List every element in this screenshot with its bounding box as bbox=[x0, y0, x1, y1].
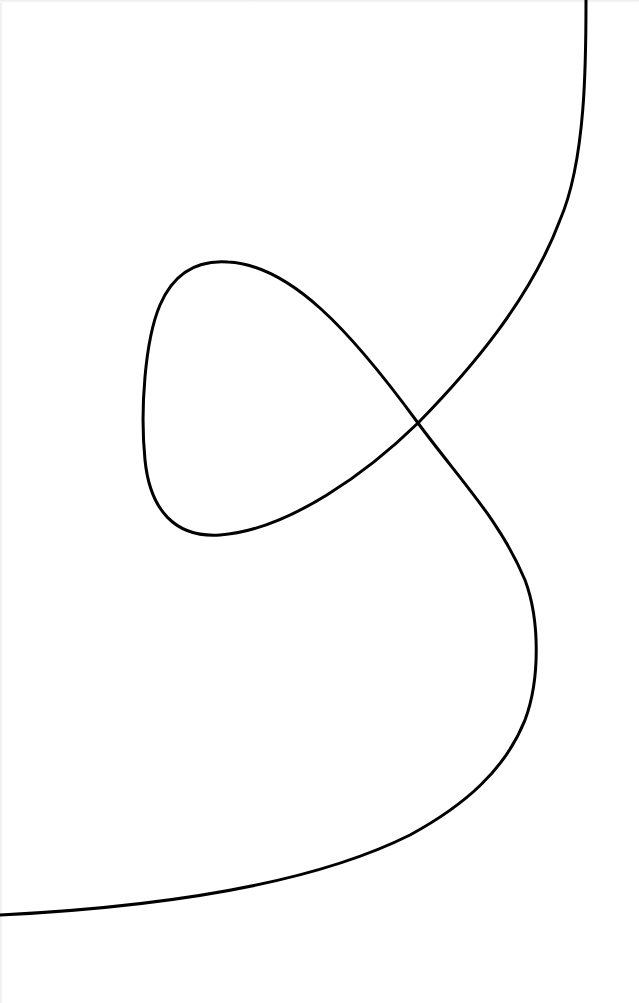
looped-curve bbox=[0, 0, 586, 915]
drawing-canvas bbox=[0, 0, 639, 1003]
curve-figure bbox=[0, 0, 639, 1003]
